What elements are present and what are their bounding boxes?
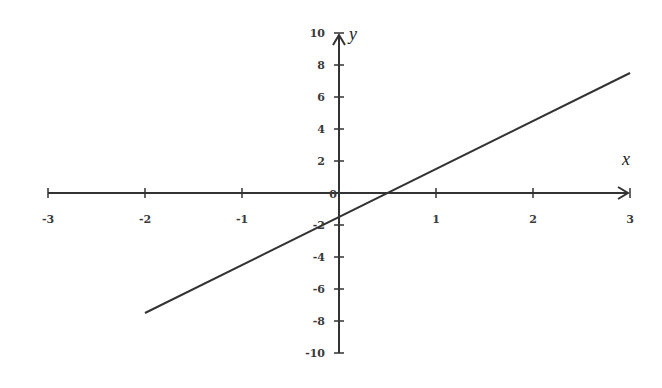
chart: -3-2-10123 -10-8-6-4-2246810 x y <box>0 0 662 388</box>
y-tick-label: -4 <box>313 251 326 264</box>
y-tick-label: -6 <box>313 283 326 296</box>
x-tick-label: 2 <box>529 213 537 226</box>
x-tick-label: 3 <box>626 213 634 226</box>
y-axis-label: y <box>347 24 357 44</box>
x-tick-label: 1 <box>432 213 440 226</box>
y-tick-label: -10 <box>305 347 325 360</box>
x-tick-label: -1 <box>236 213 248 226</box>
x-axis: -3-2-10123 <box>42 187 634 226</box>
x-tick-label: 0 <box>329 188 337 201</box>
x-tick-label: -2 <box>139 213 151 226</box>
y-tick-label: 8 <box>317 59 325 72</box>
y-tick-label: 6 <box>317 91 325 104</box>
x-tick-label: -3 <box>42 213 54 226</box>
y-tick-label: 10 <box>310 27 326 40</box>
y-tick-label: 2 <box>317 155 325 168</box>
x-axis-label: x <box>621 149 630 169</box>
y-tick-label: -8 <box>313 315 326 328</box>
y-tick-label: 4 <box>317 123 325 136</box>
